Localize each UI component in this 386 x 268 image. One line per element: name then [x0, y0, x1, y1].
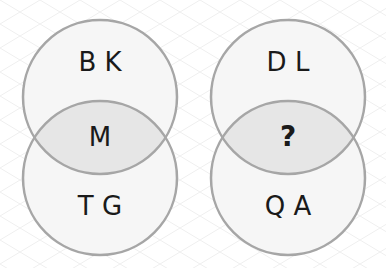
left-venn: B K M T G — [23, 20, 177, 255]
right-top-letters: D L — [267, 47, 310, 77]
venn-puzzle: B K M T G D L ? Q A — [0, 0, 386, 268]
left-middle-letter: M — [89, 122, 111, 152]
right-bottom-letters: Q A — [265, 191, 312, 221]
left-bottom-letters: T G — [77, 191, 122, 221]
right-venn: D L ? Q A — [211, 20, 365, 255]
question-mark: ? — [280, 120, 296, 153]
left-top-letters: B K — [78, 47, 122, 77]
